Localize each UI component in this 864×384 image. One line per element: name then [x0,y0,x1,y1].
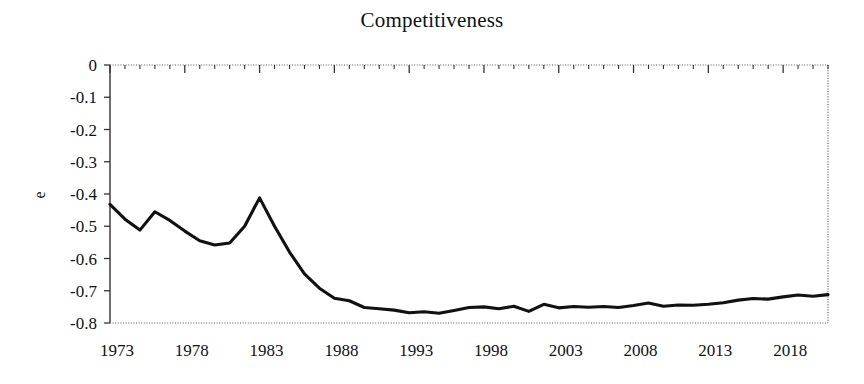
x-tick-label: 2008 [624,341,658,360]
x-tick-label: 1988 [324,341,358,360]
data-series-line [110,198,828,313]
y-tick-label: -0.1 [70,88,97,107]
x-tick-label: 1978 [175,341,209,360]
x-tick-label: 2003 [549,341,583,360]
y-tick-label: -0.3 [70,153,97,172]
y-tick-label: -0.7 [70,282,97,301]
y-tick-label: -0.4 [70,185,97,204]
x-tick-label: 2018 [773,341,807,360]
x-tick-label-group: 1973197819831988199319982003200820132018 [100,341,807,360]
x-tick-label: 1973 [100,341,134,360]
y-tick-label: 0 [89,56,98,75]
y-tick-label: -0.2 [70,121,97,140]
x-tick-label: 1998 [474,341,508,360]
y-tick-label: -0.6 [70,250,97,269]
y-tick-label: -0.8 [70,314,97,333]
tick-mark-group [104,65,828,323]
y-tick-label: -0.5 [70,217,97,236]
x-tick-label: 1993 [399,341,433,360]
plot-area: 0-0.1-0.2-0.3-0.4-0.5-0.6-0.7-0.8 197319… [0,0,864,384]
y-tick-label-group: 0-0.1-0.2-0.3-0.4-0.5-0.6-0.7-0.8 [70,56,97,333]
axis-frame [110,65,828,323]
x-tick-label: 1983 [250,341,284,360]
x-tick-label: 2013 [698,341,732,360]
chart-figure: Competitiveness e 0-0.1-0.2-0.3-0.4-0.5-… [0,0,864,384]
